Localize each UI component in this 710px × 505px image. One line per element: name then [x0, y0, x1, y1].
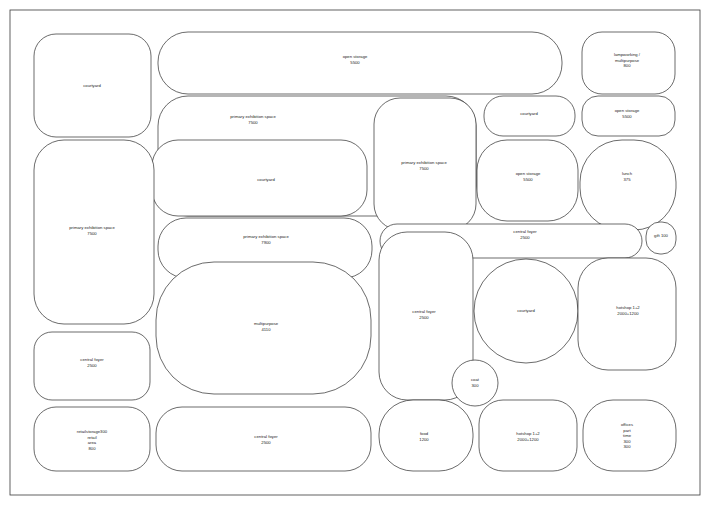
room-shape-courtyard-big[interactable] — [152, 140, 367, 216]
room-shape-central-foyer-left[interactable] — [34, 332, 150, 400]
room-shape-offices[interactable] — [583, 400, 676, 471]
room-shape-gift[interactable] — [646, 222, 676, 254]
room-shape-coat[interactable] — [452, 360, 498, 406]
room-shape-courtyard-tl[interactable] — [34, 34, 151, 137]
room-shape-hotshop-right[interactable] — [578, 258, 676, 370]
room-shape-hotshop-bottom[interactable] — [479, 400, 577, 471]
room-shape-primary-exh-left[interactable] — [34, 140, 154, 324]
room-shape-lunch[interactable] — [580, 140, 676, 230]
floor-plan-svg — [0, 0, 710, 505]
room-shape-open-storage-r2[interactable] — [477, 140, 578, 221]
room-shape-lampworking[interactable] — [582, 32, 675, 94]
room-shape-open-storage-top[interactable] — [158, 32, 562, 94]
room-shapes-group — [34, 32, 676, 471]
bubble-diagram-canvas: courtyardopen storage5500lampworking /mu… — [0, 0, 710, 505]
room-shape-multipurpose[interactable] — [156, 262, 371, 394]
room-shape-open-storage-r1[interactable] — [582, 96, 675, 136]
room-shape-central-foyer-bot[interactable] — [156, 407, 371, 471]
room-shape-food[interactable] — [379, 400, 473, 471]
room-shape-retail[interactable] — [34, 407, 150, 471]
room-shape-courtyard-circle[interactable] — [474, 259, 578, 363]
room-shape-courtyard-mid-top[interactable] — [484, 96, 575, 136]
room-shape-primary-exh-right[interactable] — [374, 98, 476, 230]
